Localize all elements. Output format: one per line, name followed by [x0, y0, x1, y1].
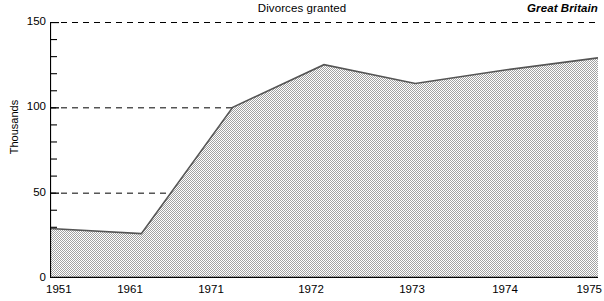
- y-tick-label-0: 0: [12, 272, 46, 284]
- chart-region-label: Great Britain: [527, 1, 598, 15]
- x-tick-label-1971: 1971: [181, 283, 241, 295]
- x-tick-label-1974: 1974: [475, 283, 535, 295]
- x-tick-label-1975: 1975: [542, 283, 602, 295]
- chart-title: Divorces granted: [0, 1, 604, 15]
- x-tick-label-1973: 1973: [382, 283, 442, 295]
- divorces-granted-chart: Divorces granted Great Britain Thousands…: [0, 0, 604, 301]
- y-tick-label-150: 150: [12, 16, 46, 28]
- x-tick-label-1961: 1961: [100, 283, 160, 295]
- plot-area: [50, 22, 598, 278]
- y-tick-label-50: 50: [12, 187, 46, 199]
- x-tick-label-1951: 1951: [46, 283, 106, 295]
- chart-svg: [50, 22, 598, 278]
- area-series-fill: [50, 58, 598, 278]
- y-tick-label-100: 100: [12, 101, 46, 113]
- y-axis-tick-labels: 150 100 50 0: [8, 0, 46, 301]
- x-tick-label-1972: 1972: [281, 283, 341, 295]
